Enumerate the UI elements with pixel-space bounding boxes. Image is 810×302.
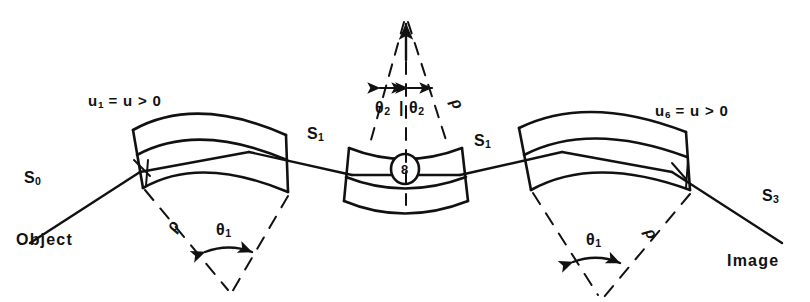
right-radius-line-b [604,194,690,297]
theta1-right-symbol: θ [586,231,595,248]
surface-s1-right-letter: S [474,132,485,149]
left-radius-line-a [145,190,228,290]
left-radius-line-b [232,196,288,292]
center-cone-right-line [408,22,446,140]
surface-s0-letter: S [24,169,35,186]
lens-element-left [133,114,288,192]
aperture-right-u: u [655,102,665,119]
surface-s1-left-letter: S [307,125,318,142]
theta2-right-symbol: θ [409,99,418,116]
left-element-mid-arc [137,140,287,160]
theta2-left-subscript: 2 [384,105,390,117]
surface-s0-subscript: 0 [35,175,41,187]
right-angle-arc-icon [573,258,620,263]
theta1-left-symbol: θ [216,221,225,238]
aperture-right-rest: = u > 0 [670,102,728,119]
ray-s1-right-segment [460,152,562,175]
theta2-label-left: θ2 [375,100,390,117]
surface-label-s1-left: S1 [307,126,324,143]
diagram-canvas [0,0,810,302]
surface-s3-subscript: 3 [773,193,779,205]
stop-marker-label: 8 [401,163,409,176]
surface-label-s3: S3 [762,188,779,205]
ray-s1-left-continued [249,152,352,175]
surface-s1-right-subscript: 1 [485,138,491,150]
theta1-left-subscript: 1 [225,227,231,239]
ray-s1-right-continued [562,152,672,172]
aperture-left-rest: = u > 0 [103,92,161,109]
surface-label-s0: S0 [24,170,41,187]
aperture-label-left: u1 = u > 0 [88,93,162,110]
surface-s1-left-subscript: 1 [318,131,324,143]
left-element-right-edge [286,135,288,192]
theta2-label-right: θ2 [409,100,424,117]
theta1-label-right: θ1 [586,232,601,249]
center-cone-left-line [371,22,404,140]
left-radius-cone [145,190,288,292]
image-label: Image [727,253,779,269]
optical-ray-diagram: u1 = u > 0 u6 = u > 0 S0 S1 S1 S3 Object… [0,0,810,302]
aperture-left-u: u [88,92,98,109]
left-element-left-edge [133,130,143,188]
aperture-label-right: u6 = u > 0 [655,103,729,120]
theta2-separator: | [399,100,404,116]
theta2-left-symbol: θ [375,99,384,116]
theta1-label-left: θ1 [216,222,231,239]
surface-label-s1-right: S1 [474,133,491,150]
theta2-right-subscript: 2 [418,105,424,117]
left-element-outer-arc [133,114,286,135]
theta1-right-subscript: 1 [595,237,601,249]
left-angle-arc-icon [205,248,252,253]
left-element-inner-arc [143,172,288,192]
right-radius-cone [533,193,690,297]
surface-s3-letter: S [762,187,773,204]
lens-element-right [519,112,690,190]
ray-s1-left-segment [140,152,249,172]
object-label: Object [16,232,73,248]
right-element-normal-tick-b [686,160,688,188]
left-element-normal-tick-b [146,160,148,186]
right-element-inner-arc [531,173,690,191]
